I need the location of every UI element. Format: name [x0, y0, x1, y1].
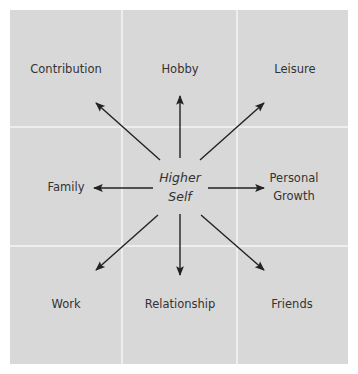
node-leisure: Leisure — [274, 61, 315, 79]
arrow-to-leisure — [200, 103, 264, 160]
node-friends: Friends — [271, 296, 312, 314]
arrow-to-friends — [201, 215, 264, 270]
center-line2: Self — [159, 187, 201, 206]
node-personal-growth-line2: Growth — [270, 188, 319, 206]
node-hobby: Hobby — [161, 61, 198, 79]
arrow-to-work — [96, 215, 158, 270]
node-contribution: Contribution — [30, 61, 101, 79]
node-relationship: Relationship — [145, 296, 216, 314]
node-personal-growth-line1: Personal — [270, 170, 319, 188]
node-family: Family — [47, 179, 84, 197]
node-work: Work — [51, 296, 80, 314]
node-personal-growth: Personal Growth — [270, 170, 319, 206]
arrow-to-contribution — [96, 103, 160, 160]
center-line1: Higher — [159, 168, 201, 187]
center-higher-self: Higher Self — [159, 168, 201, 207]
